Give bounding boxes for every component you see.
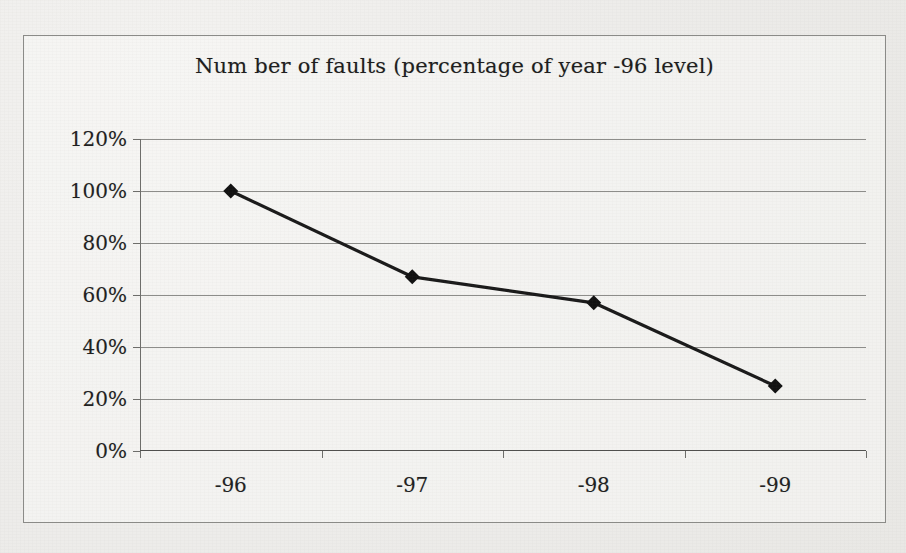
data-point-marker <box>405 269 420 284</box>
scanned-page-background: Num ber of faults (percentage of year -9… <box>0 0 906 553</box>
x-tick-mark <box>685 451 686 458</box>
y-tick-mark <box>133 191 140 192</box>
y-tick-mark <box>133 347 140 348</box>
y-tick-label: 40% <box>83 335 127 359</box>
x-tick-label: -99 <box>759 473 791 497</box>
data-point-marker <box>768 379 783 394</box>
y-tick-label: 120% <box>70 127 127 151</box>
x-tick-mark <box>503 451 504 458</box>
x-tick-label: -98 <box>578 473 610 497</box>
y-tick-mark <box>133 399 140 400</box>
y-tick-label: 100% <box>70 179 127 203</box>
plot-area: 0%20%40%60%80%100%120% -96-97-98-99 <box>140 139 866 451</box>
x-tick-label: -97 <box>396 473 428 497</box>
y-tick-label: 60% <box>83 283 127 307</box>
x-tick-mark <box>140 451 141 458</box>
y-tick-mark <box>133 295 140 296</box>
chart-frame: Num ber of faults (percentage of year -9… <box>23 35 886 523</box>
y-tick-label: 80% <box>83 231 127 255</box>
data-series-line <box>140 139 866 451</box>
data-point-marker <box>223 184 238 199</box>
data-point-marker <box>586 295 601 310</box>
y-tick-mark <box>133 243 140 244</box>
y-tick-label: 0% <box>95 439 127 463</box>
y-tick-mark <box>133 451 140 452</box>
y-tick-mark <box>133 139 140 140</box>
chart-title: Num ber of faults (percentage of year -9… <box>24 54 885 78</box>
x-tick-mark <box>866 451 867 458</box>
x-tick-label: -96 <box>215 473 247 497</box>
series-polyline <box>231 191 776 386</box>
x-tick-mark <box>322 451 323 458</box>
y-tick-label: 20% <box>83 387 127 411</box>
